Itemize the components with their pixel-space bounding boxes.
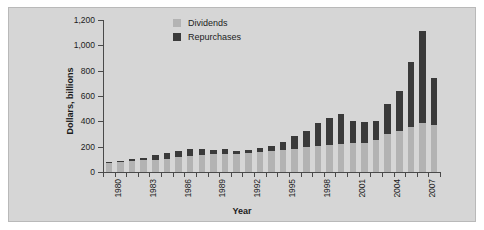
bar-segment-repurchases <box>280 142 287 150</box>
x-tick-label: 2004 <box>392 179 402 198</box>
x-tick <box>382 172 383 177</box>
x-tick <box>231 172 232 177</box>
bar-segment-dividends <box>175 157 182 172</box>
bar-segment-repurchases <box>233 151 240 153</box>
x-tick <box>301 172 302 177</box>
bar-segment-dividends <box>373 140 380 172</box>
bar-segment-dividends <box>315 146 322 172</box>
x-tick-label: 2001 <box>357 179 367 198</box>
x-tick <box>440 172 441 177</box>
y-tick-label: 1,000 <box>74 40 95 50</box>
y-tick-label: 400 <box>81 116 95 126</box>
bar-1983 <box>140 158 147 172</box>
x-tick <box>161 172 162 177</box>
bar-segment-dividends <box>303 147 310 172</box>
bar-1981 <box>117 161 124 172</box>
x-tick <box>394 172 395 177</box>
bar-segment-repurchases <box>164 153 171 159</box>
x-tick <box>196 172 197 177</box>
bar-segment-dividends <box>350 143 357 172</box>
x-tick <box>347 172 348 177</box>
bar-1999 <box>326 118 333 172</box>
bar-segment-dividends <box>291 149 298 172</box>
bar-segment-repurchases <box>117 161 124 162</box>
x-axis-line <box>103 172 440 173</box>
bar-1988 <box>199 149 206 172</box>
bar-segment-dividends <box>187 156 194 172</box>
bar-1982 <box>129 159 136 172</box>
bar-segment-dividends <box>338 144 345 173</box>
bar-1996 <box>291 136 298 172</box>
x-tick <box>126 172 127 177</box>
bar-segment-repurchases <box>268 146 275 151</box>
bar-segment-repurchases <box>152 155 159 159</box>
x-tick <box>428 172 429 177</box>
x-tick-label: 1983 <box>148 179 158 198</box>
y-tick-label: 200 <box>81 142 95 152</box>
bar-segment-repurchases <box>187 149 194 156</box>
y-tick-label: 800 <box>81 66 95 76</box>
y-tick-label: 0 <box>90 167 95 177</box>
bar-1989 <box>210 150 217 172</box>
y-tick-label: 600 <box>81 91 95 101</box>
x-tick <box>417 172 418 177</box>
bar-segment-repurchases <box>303 131 310 147</box>
bar-1992 <box>245 150 252 172</box>
x-tick <box>254 172 255 177</box>
bar-segment-dividends <box>361 143 368 172</box>
x-tick-label: 1986 <box>183 179 193 198</box>
x-tick <box>219 172 220 177</box>
chart-figure: Dollars, billions Year Dividends Repurch… <box>0 0 484 230</box>
y-tick <box>98 45 103 46</box>
bar-segment-repurchases <box>291 136 298 149</box>
x-tick <box>149 172 150 177</box>
x-tick <box>138 172 139 177</box>
bar-segment-dividends <box>431 125 438 172</box>
x-tick <box>266 172 267 177</box>
bar-segment-dividends <box>106 163 113 173</box>
bar-segment-dividends <box>280 150 287 172</box>
bar-1986 <box>175 151 182 172</box>
y-tick-label: 1,200 <box>74 15 95 25</box>
x-tick <box>359 172 360 177</box>
bar-2006 <box>408 62 415 172</box>
x-tick <box>335 172 336 177</box>
bar-2004 <box>384 104 391 172</box>
bar-1995 <box>280 142 287 172</box>
y-tick <box>98 121 103 122</box>
y-axis-title: Dollars, billions <box>65 67 75 134</box>
x-tick-label: 1980 <box>113 179 123 198</box>
x-tick <box>173 172 174 177</box>
bar-segment-repurchases <box>326 118 333 145</box>
x-tick <box>277 172 278 177</box>
x-axis-title: Year <box>0 206 484 216</box>
bar-1994 <box>268 146 275 172</box>
bar-segment-repurchases <box>257 148 264 152</box>
bar-segment-dividends <box>396 131 403 172</box>
x-tick <box>103 172 104 177</box>
bar-segment-repurchases <box>350 121 357 143</box>
bar-2002 <box>361 122 368 172</box>
x-tick <box>208 172 209 177</box>
bar-segment-dividends <box>268 151 275 172</box>
bar-segment-dividends <box>117 162 124 172</box>
bar-2000 <box>338 114 345 172</box>
bar-1993 <box>257 148 264 172</box>
bar-segment-dividends <box>222 154 229 172</box>
bar-segment-repurchases <box>175 151 182 157</box>
x-tick <box>324 172 325 177</box>
bar-segment-dividends <box>257 152 264 172</box>
bar-2007 <box>419 31 426 172</box>
bar-segment-repurchases <box>408 62 415 127</box>
bar-segment-repurchases <box>245 150 252 153</box>
bar-2003 <box>373 121 380 172</box>
bar-segment-dividends <box>140 160 147 172</box>
bar-segment-repurchases <box>106 162 113 163</box>
bar-1985 <box>164 153 171 172</box>
x-tick-label: 1995 <box>287 179 297 198</box>
x-tick <box>370 172 371 177</box>
x-tick-label: 1989 <box>217 179 227 198</box>
bar-segment-dividends <box>199 155 206 172</box>
bar-1991 <box>233 151 240 172</box>
bar-segment-dividends <box>408 127 415 172</box>
